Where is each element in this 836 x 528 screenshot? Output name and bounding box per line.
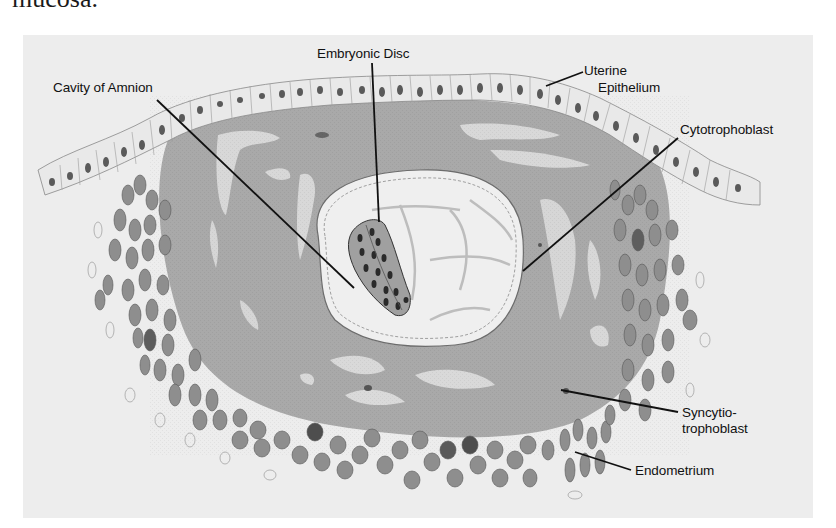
label-endometrium: Endometrium [635,463,714,479]
label-uterine: Uterine [584,63,627,79]
label-embryonic-disc: Embryonic Disc [317,46,409,62]
label-epithelium: Epithelium [598,80,660,96]
label-cytotrophoblast: Cytotrophoblast [680,122,773,138]
label-cavity-of-amnion: Cavity of Amnion [53,80,153,96]
label-trophoblast: trophoblast [682,421,748,437]
amniotic-cavity [317,170,523,347]
label-syncytio: Syncytio- [682,405,737,421]
leader-uterine-epithelium [546,72,583,86]
